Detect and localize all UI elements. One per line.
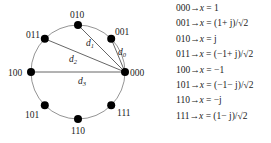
point-011 xyxy=(41,35,49,43)
label-110: 110 xyxy=(71,126,85,136)
mapping-000: 000→x = 1 xyxy=(176,1,254,16)
distance-label-d0: d0 xyxy=(118,47,127,58)
point-101 xyxy=(41,101,49,109)
label-000: 000 xyxy=(130,68,145,78)
mapping-011: 011→x = (−1+ j)/√2 xyxy=(176,47,254,62)
point-000 xyxy=(121,68,129,76)
label-011: 011 xyxy=(26,30,40,40)
mapping-101: 101→x = (−1− j)/√2 xyxy=(176,78,254,93)
point-001 xyxy=(107,35,115,43)
label-101: 101 xyxy=(25,110,40,120)
point-010 xyxy=(74,21,82,29)
label-100: 100 xyxy=(8,68,23,78)
distance-label-d3: d3 xyxy=(78,76,87,87)
point-111 xyxy=(107,101,115,109)
mapping-110: 110→x = −j xyxy=(176,93,254,108)
distance-label-d2: d2 xyxy=(69,54,78,65)
label-111: 111 xyxy=(117,108,131,118)
label-001: 001 xyxy=(115,27,130,37)
mapping-001: 001→x = (1+ j)/√2 xyxy=(176,16,254,31)
point-110 xyxy=(74,115,82,123)
label-010: 010 xyxy=(70,10,85,20)
constellation-diagram: 000 001 010 011 100 101 110 111 d0 d1 d2… xyxy=(0,0,176,143)
point-100 xyxy=(27,68,35,76)
mapping-list: 000→x = 1 001→x = (1+ j)/√2 010→x = j 01… xyxy=(176,1,254,124)
mapping-010: 010→x = j xyxy=(176,32,254,47)
mapping-111: 111→x = (1− j)/√2 xyxy=(176,109,254,124)
mapping-100: 100→x = −1 xyxy=(176,63,254,78)
